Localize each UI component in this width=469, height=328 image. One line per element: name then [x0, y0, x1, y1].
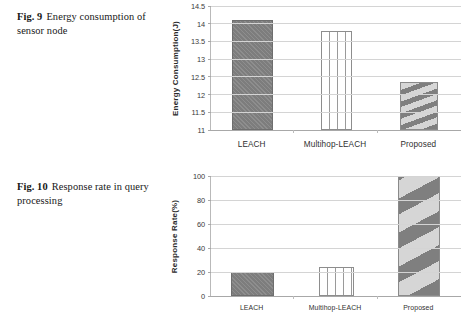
category-separator-tick	[293, 296, 294, 299]
category-label: Proposed	[403, 304, 433, 311]
y-tick-mark	[208, 200, 211, 201]
bar-leach	[231, 272, 274, 296]
bar-proposed	[400, 82, 438, 130]
y-tick-mark	[208, 94, 211, 95]
category-separator-tick	[377, 296, 378, 299]
y-tick-label: 11	[198, 126, 205, 135]
energy-consumption-bar-chart: Energy Consumption(J) 1111.51212.51313.5…	[168, 6, 463, 158]
y-tick-mark	[208, 176, 211, 177]
gridline	[211, 76, 461, 77]
gridline	[211, 23, 461, 24]
gridline	[211, 59, 461, 60]
y-tick-label: 40	[197, 244, 205, 253]
y-tick-label: 14.5	[191, 2, 205, 11]
figure-10-block: Fig. 10Response rate in query processing…	[0, 172, 469, 328]
y-tick-mark	[208, 76, 211, 77]
y-tick-mark	[208, 6, 211, 7]
y-tick-label: 12.5	[191, 72, 205, 81]
chart-9-y-axis-title-text: Energy Consumption(J)	[171, 21, 180, 116]
gridline	[211, 272, 461, 273]
category-label: LEACH	[238, 140, 266, 149]
gridline	[211, 6, 461, 7]
y-tick-label: 13.5	[191, 37, 205, 46]
figure-9-caption-label: Fig. 9	[17, 11, 42, 22]
figure-10-caption-label: Fig. 10	[17, 181, 48, 192]
gridline	[211, 112, 461, 113]
gridline	[211, 200, 461, 201]
figure-9-caption: Fig. 9Energy consumption of sensor node	[17, 10, 167, 37]
gridline	[211, 41, 461, 42]
chart-10-bars-layer	[211, 176, 461, 296]
y-tick-mark	[208, 272, 211, 273]
chart-9-plot-area	[210, 6, 461, 130]
category-label: Multihop-LEACH	[304, 140, 366, 149]
chart-9-y-tick-labels: 1111.51212.51313.51414.5	[182, 6, 208, 130]
y-tick-mark	[208, 112, 211, 113]
gridline	[211, 248, 461, 249]
category-separator-tick	[377, 130, 378, 133]
y-tick-mark	[208, 248, 211, 249]
chart-10-y-tick-labels: 020406080100	[182, 176, 208, 296]
y-tick-label: 11.5	[192, 108, 205, 117]
y-tick-label: 80	[197, 196, 205, 205]
y-tick-mark	[208, 23, 211, 24]
figure-10-caption: Fig. 10Response rate in query processing	[17, 180, 167, 207]
chart-10-y-axis-title-text: Response Rate(%)	[171, 199, 180, 272]
y-tick-label: 20	[197, 268, 205, 277]
response-rate-bar-chart: Response Rate(%) 020406080100 LEACHMulti…	[168, 176, 463, 324]
chart-10-category-axis: LEACHMultihop-LEACHProposed	[210, 296, 461, 320]
y-tick-mark	[208, 41, 211, 42]
bar-leach	[232, 20, 273, 130]
figure-9-block: Fig. 9Energy consumption of sensor node …	[0, 0, 469, 164]
y-tick-mark	[208, 224, 211, 225]
category-label: LEACH	[240, 304, 263, 311]
y-tick-label: 14	[197, 19, 205, 28]
chart-9-y-axis-title: Energy Consumption(J)	[168, 6, 182, 130]
chart-10-y-axis-title: Response Rate(%)	[168, 176, 182, 296]
y-tick-label: 13	[197, 55, 205, 64]
bar-multihop-leach	[321, 31, 352, 130]
gridline	[211, 176, 461, 177]
y-tick-label: 60	[197, 220, 205, 229]
category-label: Multihop-LEACH	[309, 304, 362, 311]
y-tick-label: 0	[201, 292, 205, 301]
chart-10-plot-area	[210, 176, 461, 296]
category-separator-tick	[293, 130, 294, 133]
y-tick-mark	[208, 59, 211, 60]
y-tick-label: 100	[193, 172, 205, 181]
category-label: Proposed	[400, 140, 436, 149]
bar-proposed	[398, 176, 440, 296]
gridline	[211, 224, 461, 225]
chart-9-category-axis: LEACHMultihop-LEACHProposed	[210, 130, 461, 156]
gridline	[211, 94, 461, 95]
y-tick-label: 12	[197, 90, 205, 99]
